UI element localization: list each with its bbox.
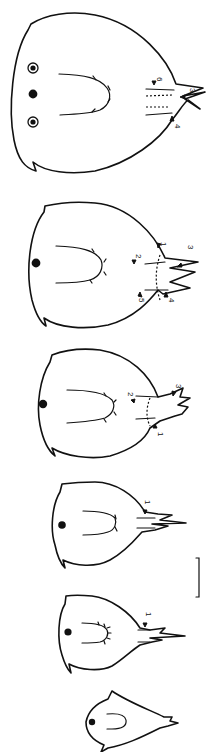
- stage-6: 6 3 4: [11, 13, 205, 173]
- stage-3-body-outline: [52, 482, 186, 568]
- label-1: 1: [156, 432, 165, 437]
- stage-6-eye-right: [28, 117, 38, 127]
- stage-6-eye-center: [29, 90, 38, 99]
- label-6: 6: [155, 77, 164, 82]
- stage-6-gut: [59, 74, 110, 115]
- stage-4-gut: [67, 390, 114, 423]
- label-2: 2: [126, 392, 135, 397]
- stage-4-eye: [39, 400, 47, 408]
- stage-3-gut: [83, 511, 116, 535]
- stage-2-body-outline: [59, 595, 185, 673]
- label-3: 3: [174, 384, 183, 389]
- stage-4: 2 3 1: [38, 349, 190, 457]
- label-3: 3: [186, 245, 195, 250]
- stage-1-eye: [89, 719, 95, 725]
- stage-2: 1: [59, 595, 185, 673]
- stage-2-eye: [64, 628, 71, 635]
- stage-2-gut: [82, 623, 108, 643]
- stage-1-gut: [107, 714, 126, 729]
- label-1: 1: [143, 500, 152, 505]
- label-4: 4: [167, 298, 176, 303]
- stage-3: 1: [52, 482, 186, 568]
- label-1: 1: [159, 242, 168, 247]
- stage-1: [86, 691, 178, 752]
- stage-5-body-outline: [29, 202, 198, 327]
- stage-6-body-outline: [11, 13, 205, 173]
- label-2: 2: [134, 254, 143, 259]
- stage-4-body-outline: [38, 349, 190, 457]
- stage-3-eye: [58, 521, 66, 529]
- stage-5-eye: [32, 259, 41, 268]
- label-5: 5: [137, 298, 146, 303]
- scale-bar: [196, 558, 199, 597]
- label-3: 3: [188, 88, 197, 93]
- figure-canvas: 6 3 4 1 2 3 4 5 2 3 1: [0, 0, 220, 752]
- stage-6-eye-left: [28, 63, 38, 73]
- stage-5-gut: [56, 246, 102, 283]
- stage-6-stalk: [146, 89, 174, 115]
- stage-1-body-outline: [86, 691, 178, 752]
- label-1: 1: [144, 612, 153, 617]
- stage-5: 1 2 3 4 5: [29, 202, 198, 327]
- label-4: 4: [173, 124, 182, 129]
